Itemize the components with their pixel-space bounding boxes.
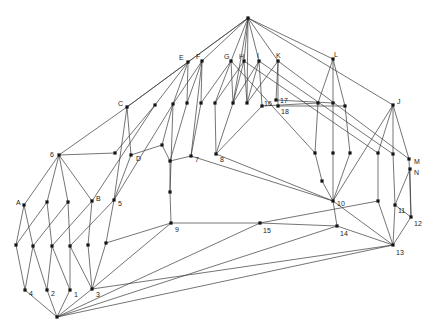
graph-node-I xyxy=(257,59,260,62)
graph-figure: EFGHIKLJC161718D78MN6AB59151011121413421… xyxy=(0,0,437,334)
graph-node-T xyxy=(246,16,249,19)
graph-edge-t3-n10 xyxy=(333,153,350,201)
graph-edge-b3-n1 xyxy=(52,246,70,290)
graph-node-n12 xyxy=(409,215,412,218)
graph-edge-N-n12 xyxy=(410,169,411,217)
graph-node-n2 xyxy=(45,288,48,291)
graph-edge-n8-n10 xyxy=(216,154,333,201)
graph-node-n8 xyxy=(214,152,217,155)
node-label-n3: 3 xyxy=(96,291,100,298)
graph-node-n1 xyxy=(68,288,71,291)
graph-edge-D-n5 xyxy=(114,155,131,200)
graph-node-s3 xyxy=(343,104,346,107)
graph-edge-n16-n8 xyxy=(216,106,262,154)
graph-node-n3 xyxy=(90,287,93,290)
graph-edge-n13-n12 xyxy=(393,217,411,245)
graph-edge-T-L xyxy=(248,18,333,59)
graph-node-s1 xyxy=(316,101,319,104)
edge-layer xyxy=(16,18,411,317)
graph-edge-E-C xyxy=(127,62,188,107)
graph-node-n14 xyxy=(335,224,338,227)
graph-node-n7 xyxy=(189,154,192,157)
graph-edge-b6-n3 xyxy=(92,243,106,289)
node-label-M: M xyxy=(414,158,420,165)
graph-edge-G-r4 xyxy=(201,61,231,103)
node-label-n17: 17 xyxy=(280,97,288,104)
label-layer: EFGHIKLJC161718D78MN6AB59151011121413421… xyxy=(16,51,422,298)
graph-edge-b2-n2 xyxy=(33,246,47,290)
node-label-n12: 12 xyxy=(414,220,422,227)
graph-node-r6 xyxy=(231,101,234,104)
graph-edge-a2-b4 xyxy=(68,202,70,246)
graph-edge-H-r6 xyxy=(233,61,244,103)
graph-node-n5 xyxy=(112,198,115,201)
graph-edge-a1-b3 xyxy=(47,202,52,246)
node-label-n10: 10 xyxy=(337,200,345,207)
graph-node-G xyxy=(229,59,232,62)
graph-edge-r1-d0 xyxy=(115,105,155,153)
graph-edge-J-n10 xyxy=(333,105,393,201)
graph-node-r5 xyxy=(213,101,216,104)
graph-edge-H-t4 xyxy=(244,61,378,153)
node-label-n2: 2 xyxy=(51,290,55,297)
graph-edge-n6-a1 xyxy=(47,155,59,202)
node-label-N: N xyxy=(414,169,419,176)
graph-edge-B-b5 xyxy=(88,201,92,245)
graph-edge-N-n11 xyxy=(395,169,410,205)
graph-edge-n6-a2 xyxy=(59,155,68,202)
graph-edge-A-b2 xyxy=(24,205,33,246)
graph-node-b5 xyxy=(86,243,89,246)
node-label-n11: 11 xyxy=(398,207,405,214)
graph-edge-E-r2 xyxy=(173,62,188,104)
graph-node-M xyxy=(407,157,410,160)
graph-edge-C-D xyxy=(127,107,131,155)
graph-edge-n13-u11 xyxy=(378,201,393,245)
graph-edge-n7-n10 xyxy=(191,156,333,201)
graph-node-K xyxy=(276,59,279,62)
graph-edge-G-r6 xyxy=(231,61,233,103)
graph-edge-T-J xyxy=(248,18,393,105)
graph-edge-t1-p1 xyxy=(315,153,322,181)
node-label-F: F xyxy=(196,53,200,60)
graph-node-r2 xyxy=(171,102,174,105)
graph-node-N xyxy=(408,167,411,170)
graph-edge-n1-Z xyxy=(57,290,70,317)
graph-node-C xyxy=(125,105,128,108)
graph-canvas: EFGHIKLJC161718D78MN6AB59151011121413421… xyxy=(0,0,437,334)
graph-node-F xyxy=(200,59,203,62)
graph-node-a1 xyxy=(45,200,48,203)
graph-edge-K-r7 xyxy=(247,61,278,103)
graph-node-r7 xyxy=(245,101,248,104)
node-label-n1: 1 xyxy=(74,291,78,298)
graph-edge-n15-u11 xyxy=(260,201,378,223)
graph-edge-J-M xyxy=(393,105,409,159)
graph-edge-n7-m2 xyxy=(170,156,191,161)
graph-node-t2 xyxy=(331,151,334,154)
graph-node-b3 xyxy=(50,244,53,247)
node-label-n15: 15 xyxy=(263,227,271,234)
graph-edge-L-s3 xyxy=(333,59,345,106)
node-label-n6: 6 xyxy=(50,151,54,158)
node-label-K: K xyxy=(276,52,281,59)
graph-node-D xyxy=(129,153,132,156)
graph-node-n15 xyxy=(258,221,261,224)
graph-edge-n5-b4 xyxy=(70,200,114,246)
graph-edge-r1-B xyxy=(92,105,155,201)
graph-node-b4 xyxy=(68,244,71,247)
graph-edge-n6-d0 xyxy=(59,153,115,155)
graph-node-E xyxy=(186,60,189,63)
node-label-H: H xyxy=(239,53,244,60)
graph-edge-r2-m1 xyxy=(162,104,173,145)
graph-edge-n10-n13 xyxy=(333,201,393,245)
graph-node-n17 xyxy=(274,98,277,101)
graph-node-r3 xyxy=(185,101,188,104)
node-label-B: B xyxy=(96,195,101,202)
graph-node-t3 xyxy=(348,151,351,154)
graph-node-u11 xyxy=(376,199,379,202)
node-layer xyxy=(14,16,412,318)
graph-edge-r5-n8 xyxy=(215,103,216,154)
graph-edge-E-r1 xyxy=(155,62,188,105)
node-label-n14: 14 xyxy=(340,230,348,237)
graph-edge-Z-n15 xyxy=(57,223,260,317)
graph-edge-H-r5 xyxy=(215,61,244,103)
